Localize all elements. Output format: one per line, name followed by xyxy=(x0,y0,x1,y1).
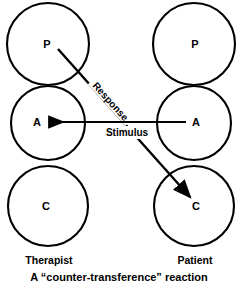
column-label-therapist: Therapist xyxy=(25,254,73,266)
label-patient-child: C xyxy=(192,200,200,212)
diagram-canvas: Response Stimulus P A C P A C Therapist … xyxy=(0,0,238,286)
pac-transaction-diagram: Response Stimulus P A C P A C Therapist … xyxy=(0,0,238,286)
label-therapist-child: C xyxy=(42,200,50,212)
stimulus-label: Stimulus xyxy=(106,127,149,138)
column-label-patient: Patient xyxy=(177,254,213,266)
label-therapist-parent: P xyxy=(43,38,50,50)
label-patient-adult: A xyxy=(192,116,200,128)
label-patient-parent: P xyxy=(191,38,198,50)
circle-therapist-adult[interactable] xyxy=(11,86,85,160)
figure-caption: A “counter-transference” reaction xyxy=(30,271,208,283)
label-therapist-adult: A xyxy=(33,116,41,128)
